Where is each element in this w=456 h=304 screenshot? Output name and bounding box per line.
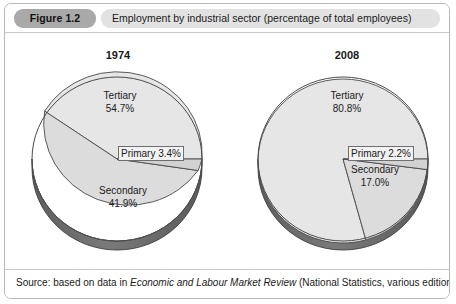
label-tertiary-right: Tertiary 80.8% — [307, 90, 387, 115]
charts-area: 1974 2008 — [5, 33, 449, 269]
figure-header: Figure 1.2 Employment by industrial sect… — [5, 4, 449, 33]
figure-footer: Source: based on data in Economic and La… — [5, 269, 449, 298]
chart-year-label-right: 2008 — [307, 49, 387, 61]
chart-year-label-left: 1974 — [78, 49, 158, 61]
label-secondary-right: Secondary 17.0% — [335, 164, 415, 189]
source-publication-title: Economic and Labour Market Review — [130, 277, 296, 288]
source-suffix: (National Statistics, various editions) — [296, 277, 450, 288]
label-primary-left: Primary 3.4% — [118, 146, 184, 161]
source-note: Source: based on data in Economic and La… — [16, 277, 450, 288]
label-primary-right: Primary 2.2% — [348, 146, 414, 161]
label-secondary-left: Secondary 41.9% — [83, 185, 163, 210]
label-tertiary-left: Tertiary 54.7% — [80, 90, 160, 115]
figure-number-badge: Figure 1.2 — [14, 9, 96, 28]
figure-title: Employment by industrial sector (percent… — [101, 9, 440, 28]
figure-container: Figure 1.2 Employment by industrial sect… — [4, 3, 450, 299]
source-prefix: Source: based on data in — [16, 277, 130, 288]
